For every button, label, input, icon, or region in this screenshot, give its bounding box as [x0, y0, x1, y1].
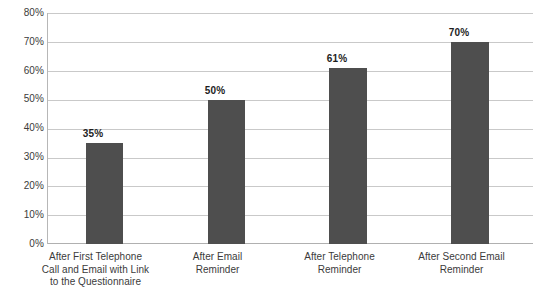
bar-3[interactable]: [329, 68, 367, 244]
category-label-4-line-1: After Second Email: [389, 251, 534, 264]
bar-chart: 80% 70% 60% 50% 40% 30% 20% 10% 0% 35% 5…: [0, 0, 547, 304]
bar-value-label-4: 70%: [429, 27, 489, 38]
category-label-4: After Second Email Reminder: [389, 251, 534, 276]
bar-value-label-1: 35%: [63, 128, 123, 139]
y-axis-tick-10: 10%: [4, 210, 44, 220]
bar-4[interactable]: [451, 42, 489, 244]
bar-value-label-2: 50%: [185, 85, 245, 96]
y-axis-tick-70: 70%: [4, 37, 44, 47]
y-axis-tick-80: 80%: [4, 8, 44, 18]
category-label-4-line-2: Reminder: [389, 264, 534, 277]
y-axis-tick-30: 30%: [4, 152, 44, 162]
y-axis-tick-50: 50%: [4, 94, 44, 104]
y-axis-tick-0: 0%: [4, 239, 44, 249]
category-label-1-line-3: to the Questionnaire: [23, 276, 168, 289]
y-axis-tick-20: 20%: [4, 181, 44, 191]
bar-1[interactable]: [86, 143, 123, 244]
bar-2[interactable]: [208, 100, 245, 244]
bar-value-label-3: 61%: [307, 53, 367, 64]
gridline-80: [48, 13, 533, 14]
y-axis-tick-40: 40%: [4, 123, 44, 133]
y-axis-tick-60: 60%: [4, 66, 44, 76]
